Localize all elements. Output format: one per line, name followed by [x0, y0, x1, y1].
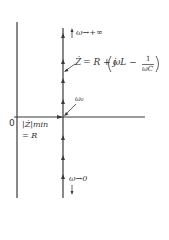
down-arrow-icon [71, 191, 74, 195]
min-impedance-label-line1: |Ż|min [22, 121, 48, 129]
origin-label: 0 [9, 119, 15, 128]
resonance-label: ω₀ [75, 96, 84, 103]
formula-fraction-numerator: 1 [146, 56, 150, 63]
formula-term: ωL − [113, 58, 137, 67]
up-arrow-icon [71, 28, 74, 32]
formula-lhs: Ż [75, 58, 81, 67]
bottom-label: ω→0 [69, 175, 87, 183]
formula-rhs-prefix: = R + j [83, 58, 116, 67]
real-axis-arrow-icon [57, 115, 63, 119]
formula-right-paren [156, 56, 159, 72]
min-impedance-label-line2: = R [22, 132, 37, 140]
formula-fraction-denominator: ωC [142, 66, 153, 73]
top-label: ω→+∞ [76, 29, 103, 37]
